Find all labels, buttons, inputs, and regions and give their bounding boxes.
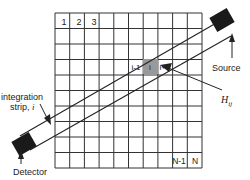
cell-label-n: N — [192, 156, 198, 166]
cell-label-1: 1 — [61, 17, 66, 27]
cell-label-n-minus-1: N-1 — [172, 156, 186, 166]
integration-strip-label-line2: strip, i — [10, 102, 35, 112]
cell-label-i: i — [149, 63, 151, 72]
detector-block — [11, 132, 36, 156]
cell-label-3: 3 — [91, 17, 96, 27]
source-label: Source — [212, 63, 241, 73]
integration-strip-label-line1: integration — [1, 92, 43, 102]
pixel-grid — [55, 13, 202, 168]
weight-label: Hij — [220, 94, 232, 108]
detector-label: Detector — [13, 167, 47, 177]
cell-label-i-minus-1: i-1 — [132, 63, 141, 72]
source-block — [209, 8, 234, 32]
integration-strip — [20, 22, 231, 150]
cell-label-2: 2 — [76, 17, 81, 27]
projection-diagram: 1 2 3 N-1 N i-1 i i+1 Source Hij integra… — [0, 0, 250, 180]
